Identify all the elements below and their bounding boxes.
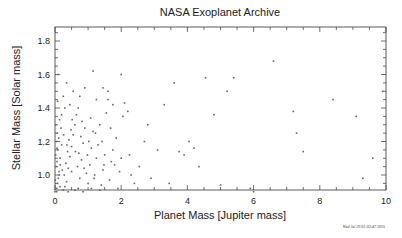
data-point: [253, 191, 255, 193]
x-tick-label: 10: [381, 196, 391, 206]
data-point: [107, 91, 109, 93]
data-points: [54, 60, 383, 192]
data-point: [79, 96, 81, 98]
data-point: [71, 171, 73, 173]
data-point: [296, 132, 298, 134]
data-point: [82, 142, 84, 144]
data-point: [134, 183, 136, 185]
data-point: [111, 161, 113, 163]
data-point: [233, 77, 235, 79]
data-point: [362, 178, 364, 180]
data-point: [74, 124, 76, 126]
data-point: [86, 173, 88, 175]
x-tick-label: 8: [317, 196, 322, 206]
data-point: [66, 144, 68, 146]
data-point: [250, 188, 252, 190]
y-tick-label: 1.4: [37, 103, 50, 113]
data-point: [56, 141, 58, 143]
data-point: [193, 147, 195, 149]
data-point: [58, 137, 60, 139]
x-tick-label: 4: [185, 196, 190, 206]
data-point: [57, 149, 59, 151]
data-point: [127, 111, 129, 113]
data-point: [77, 166, 79, 168]
data-point: [117, 188, 119, 190]
data-point: [72, 134, 74, 136]
data-point: [101, 184, 103, 186]
data-point: [109, 179, 111, 181]
data-point: [81, 121, 83, 123]
data-point: [102, 169, 104, 171]
data-point: [66, 82, 68, 84]
data-point: [115, 137, 117, 139]
data-point: [55, 179, 57, 181]
y-tick-label: 1.6: [37, 70, 50, 80]
chart-title: NASA Exoplanet Archive: [160, 6, 280, 18]
data-point: [67, 151, 69, 153]
data-point: [89, 164, 91, 166]
data-point: [74, 189, 76, 191]
data-point: [96, 99, 98, 101]
data-point: [77, 107, 79, 109]
data-point: [101, 141, 103, 143]
y-tick-label: 1.2: [37, 137, 50, 147]
data-point: [60, 127, 62, 129]
data-point: [302, 151, 304, 153]
data-point: [59, 186, 61, 188]
timestamp: Wed Jul 29 01:03:47 2015: [343, 224, 385, 229]
data-point: [147, 124, 149, 126]
data-point: [110, 127, 112, 129]
data-point: [61, 114, 63, 116]
data-point: [188, 141, 190, 143]
data-point: [64, 107, 66, 109]
data-point: [104, 154, 106, 156]
data-point: [144, 141, 146, 143]
data-point: [69, 104, 71, 106]
data-point: [64, 186, 66, 188]
data-point: [56, 147, 58, 149]
scatter-chart: NASA Exoplanet Archive 02468101.01.21.41…: [0, 0, 402, 238]
data-point: [84, 127, 86, 129]
data-point: [372, 157, 374, 159]
data-point: [119, 171, 121, 173]
data-point: [60, 164, 62, 166]
data-point: [58, 171, 60, 173]
data-point: [58, 178, 60, 180]
data-point: [97, 144, 99, 146]
data-point: [120, 74, 122, 76]
data-point: [87, 154, 89, 156]
data-point: [63, 189, 65, 191]
data-point: [355, 116, 357, 118]
data-point: [59, 174, 61, 176]
data-point: [129, 154, 131, 156]
data-point: [55, 154, 57, 156]
data-point: [87, 183, 89, 185]
tick-labels: 02468101.01.21.41.61.8: [37, 36, 391, 206]
data-point: [90, 117, 92, 119]
data-point: [99, 189, 101, 191]
data-point: [95, 132, 97, 134]
data-point: [82, 191, 84, 193]
data-point: [91, 188, 93, 190]
data-point: [56, 161, 58, 163]
data-point: [213, 114, 215, 116]
x-axis-label: Planet Mass [Jupiter mass]: [154, 209, 286, 221]
data-point: [163, 104, 165, 106]
data-point: [79, 178, 81, 180]
data-point: [59, 157, 61, 159]
y-axis-label: Stellar Mass [Solar mass]: [10, 46, 22, 171]
data-point: [76, 114, 78, 116]
data-point: [65, 163, 67, 165]
data-point: [157, 149, 159, 151]
data-point: [61, 144, 63, 146]
data-point: [124, 102, 126, 104]
data-point: [72, 91, 74, 93]
data-point: [80, 136, 82, 138]
data-point: [77, 188, 79, 190]
data-point: [93, 178, 95, 180]
data-point: [67, 191, 69, 193]
data-point: [57, 132, 59, 134]
data-point: [55, 166, 57, 168]
data-point: [75, 151, 77, 153]
data-point: [173, 82, 175, 84]
